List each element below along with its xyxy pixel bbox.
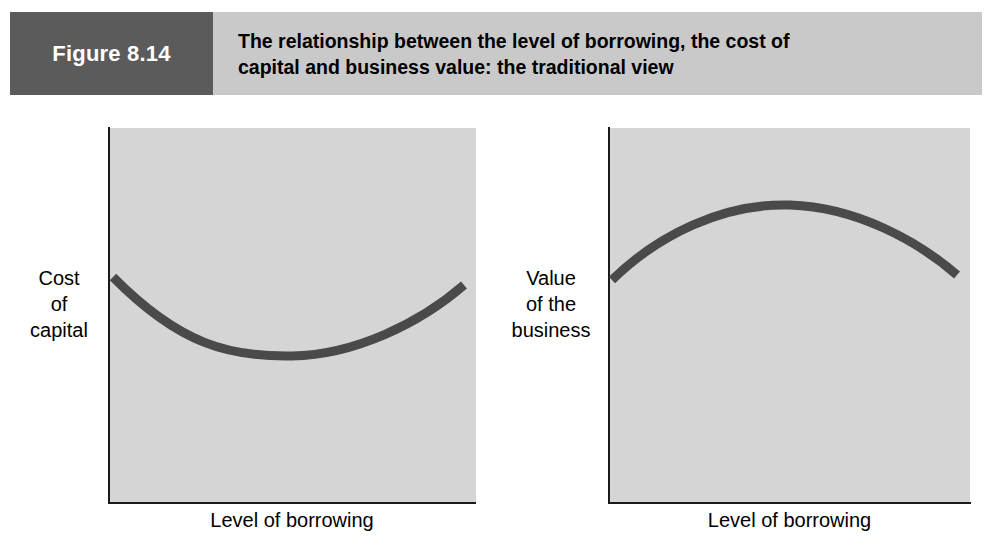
plot-area-cost-of-capital — [110, 128, 476, 503]
x-axis-label-cost-of-capital: Level of borrowing — [108, 509, 476, 532]
y-axis-label-line-1: Cost — [14, 265, 104, 291]
y-axis-cost-of-capital — [108, 127, 110, 504]
figure-number-badge: Figure 8.14 — [10, 12, 213, 95]
y-axis-label-cost-of-capital: Cost of capital — [14, 265, 104, 343]
figure-page: Figure 8.14 The relationship between the… — [0, 0, 996, 559]
plot-area-value-of-business — [610, 128, 970, 503]
figure-header: Figure 8.14 The relationship between the… — [10, 12, 982, 95]
x-axis-label-value-of-business: Level of borrowing — [608, 509, 971, 532]
y-axis-label-line-1: Value — [498, 265, 604, 291]
chart-value-of-business: Value of the business Level of borrowing — [498, 95, 996, 559]
y-axis-label-line-2: of the — [498, 291, 604, 317]
y-axis-label-value-of-business: Value of the business — [498, 265, 604, 343]
figure-title: The relationship between the level of bo… — [238, 12, 974, 95]
x-axis-value-of-business — [608, 502, 971, 504]
charts-container: Cost of capital Level of borrowing Value… — [0, 95, 996, 559]
figure-title-line-1: The relationship between the level of bo… — [238, 28, 974, 54]
figure-title-line-2: capital and business value: the traditio… — [238, 54, 974, 80]
y-axis-label-line-3: business — [498, 317, 604, 343]
y-axis-label-line-3: capital — [14, 317, 104, 343]
figure-number-label: Figure 8.14 — [52, 41, 170, 67]
y-axis-value-of-business — [608, 127, 610, 504]
chart-cost-of-capital: Cost of capital Level of borrowing — [0, 95, 498, 559]
y-axis-label-line-2: of — [14, 291, 104, 317]
x-axis-cost-of-capital — [108, 502, 476, 504]
